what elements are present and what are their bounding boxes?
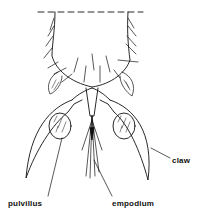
claw-right [100, 100, 149, 180]
empodium-bristles [82, 116, 102, 178]
leader-claw [151, 148, 170, 158]
pulvillus-left [49, 113, 71, 139]
leader-empodium [94, 160, 112, 196]
label-claw: claw [172, 156, 190, 165]
unguitractor-plate [86, 88, 98, 116]
claw-left [26, 100, 82, 178]
label-pulvillus: pulvillus [8, 199, 42, 208]
label-empodium: empodium [112, 199, 154, 208]
basal-pad-left [48, 72, 62, 94]
leader-pulvillus [48, 138, 62, 196]
segment-bristles [44, 18, 138, 82]
pulvillus-right [113, 113, 135, 139]
pretarsus-diagram [0, 0, 207, 223]
